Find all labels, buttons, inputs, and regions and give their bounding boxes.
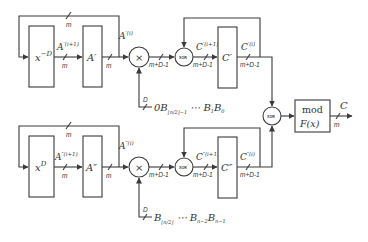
width-label: m <box>106 172 112 179</box>
bottom-path: m xD m A″(i+1) A″ m A″(i) × D B⌊n/2⌋ ⋯ B… <box>19 122 272 225</box>
width-label: m <box>66 131 72 138</box>
bottom-c-curr-label: C″(i) <box>240 151 255 162</box>
top-b-input-label: 0B⌊n/2⌋−1 ⋯ B1B0 <box>154 102 225 115</box>
width-label: m+D-1 <box>149 61 169 68</box>
width-label: m+D-1 <box>240 171 260 178</box>
top-path: m x−D m A′(i+1) A′ m A′(i) × D 0B⌊n/2⌋−1… <box>19 12 272 115</box>
width-label: m <box>62 62 68 69</box>
width-label: m+D-1 <box>240 61 260 68</box>
top-c-next-label: C′(i+1) <box>196 41 218 52</box>
top-c-curr-label: C′(i) <box>241 41 255 52</box>
bottom-register-c-label: C″ <box>221 162 233 173</box>
width-label: m <box>62 172 68 179</box>
width-label: D <box>143 206 148 213</box>
bottom-c-next-label: C″(i+1) <box>196 151 219 162</box>
xor-label: XOR <box>179 166 187 170</box>
top-a-curr-label: A′(i) <box>118 30 133 41</box>
block-diagram: m x−D m A′(i+1) A′ m A′(i) × D 0B⌊n/2⌋−1… <box>0 0 368 242</box>
xor-label: XOR <box>179 56 187 60</box>
width-label: m <box>66 21 72 28</box>
width-label: m+D-1 <box>193 171 213 178</box>
width-label: m <box>334 121 340 128</box>
bottom-a-next-label: A″(i+1) <box>54 151 78 162</box>
width-label: m+D-1 <box>149 171 169 178</box>
top-register-c-label: C′ <box>222 52 233 63</box>
final-stage: XOR mod F(x) m C <box>263 100 352 132</box>
multiply-icon: × <box>135 162 143 173</box>
top-register-a-label: A′ <box>86 52 97 63</box>
mod-label: mod <box>302 104 323 115</box>
bottom-a-curr-label: A″(i) <box>118 140 134 151</box>
xor-label: XOR <box>267 115 275 119</box>
bottom-b-input-label: B⌊n/2⌋ ⋯ Bn−2Bn−1 <box>153 212 226 225</box>
width-label: m <box>106 62 112 69</box>
output-label: C <box>340 100 348 111</box>
top-a-next-label: A′(i+1) <box>56 41 79 52</box>
multiply-icon: × <box>135 52 143 63</box>
width-label: m+D-1 <box>193 61 213 68</box>
mod-poly-label: F(x) <box>299 118 320 129</box>
width-label: D <box>143 96 148 103</box>
bottom-register-a-label: A″ <box>85 162 97 173</box>
